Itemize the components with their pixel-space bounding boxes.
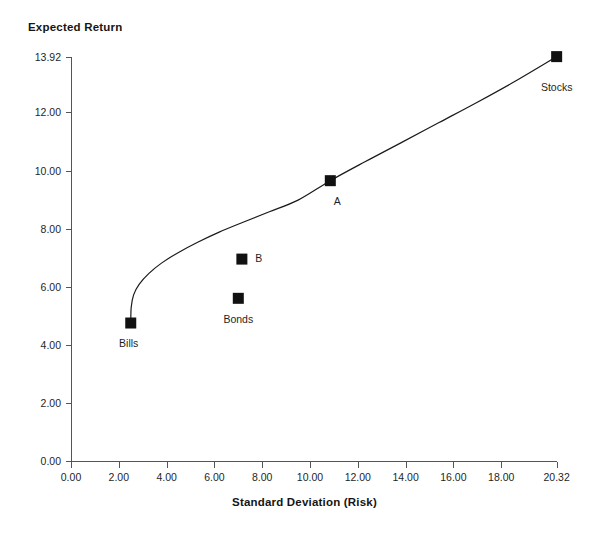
x-tick-label: 2.00 [109, 471, 129, 483]
y-tick-label: 0.00 [0, 455, 61, 467]
x-tick-label: 8.00 [252, 471, 272, 483]
x-tick-label: 16.00 [440, 471, 466, 483]
data-point-markers [125, 51, 562, 328]
frontier-curve-path [131, 57, 557, 323]
data-point-marker [236, 254, 247, 265]
x-tick-label: 12.00 [345, 471, 371, 483]
y-tick-label: 8.00 [0, 223, 61, 235]
data-point-label: B [255, 252, 262, 264]
plot-area [0, 0, 609, 537]
data-point-label: A [334, 195, 341, 207]
y-tick-label: 13.92 [0, 51, 61, 63]
x-tick-label: 6.00 [204, 471, 224, 483]
data-point-marker [551, 51, 562, 62]
x-tick-label: 0.00 [61, 471, 81, 483]
data-point-marker [125, 318, 136, 329]
data-point-label: Bills [119, 337, 138, 349]
x-axis-title: Standard Deviation (Risk) [0, 496, 609, 508]
y-tick-label: 10.00 [0, 165, 61, 177]
data-point-marker [325, 175, 336, 186]
chart-container: Expected Return 0.002.004.006.008.0010.0… [0, 0, 609, 537]
y-tick-label: 4.00 [0, 339, 61, 351]
x-tick-label: 20.32 [544, 471, 570, 483]
x-tick-label: 4.00 [156, 471, 176, 483]
x-tick-label: 18.00 [488, 471, 514, 483]
data-point-label: Bonds [223, 313, 253, 325]
y-tick-label: 2.00 [0, 397, 61, 409]
data-point-marker [233, 293, 244, 304]
data-point-label: Stocks [541, 81, 573, 93]
y-tick-label: 6.00 [0, 281, 61, 293]
y-tick-label: 12.00 [0, 106, 61, 118]
axis-lines [66, 57, 558, 468]
x-tick-label: 10.00 [297, 471, 323, 483]
efficient-frontier-curve [131, 57, 557, 323]
x-tick-label: 14.00 [392, 471, 418, 483]
